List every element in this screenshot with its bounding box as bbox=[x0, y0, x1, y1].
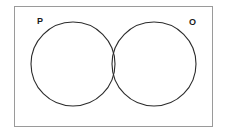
venn-diagram-figure: P O bbox=[0, 0, 227, 134]
set-label-p: P bbox=[37, 17, 43, 26]
set-label-o: O bbox=[189, 18, 196, 27]
corner-watermark bbox=[199, 110, 217, 120]
set-circle-p bbox=[31, 22, 115, 106]
set-circle-o bbox=[112, 22, 196, 106]
